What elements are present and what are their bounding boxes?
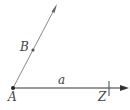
label-z: Z <box>97 90 107 104</box>
label-a-point: A <box>7 90 17 104</box>
label-b: B <box>19 40 29 54</box>
label-ray-a: a <box>58 73 65 87</box>
ray-a-arrowhead-icon <box>120 85 129 91</box>
point-b-dot <box>31 48 34 51</box>
ray-ab-arrowhead-icon <box>52 4 58 13</box>
geometry-diagram: B A a Z <box>0 0 130 110</box>
